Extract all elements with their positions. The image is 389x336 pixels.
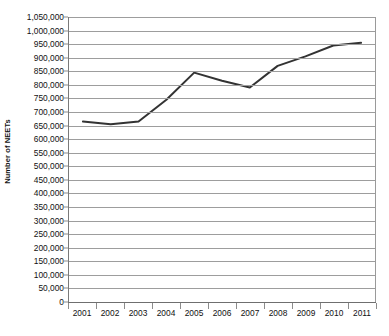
x-tick-separator: [152, 303, 153, 309]
plot-area: [68, 17, 376, 302]
y-tick-label: 150,000: [34, 257, 64, 265]
x-tick-separator: [236, 303, 237, 309]
x-tick-separator: [376, 303, 377, 309]
x-axis-tick-labels: 2001200220032004200520062007200820092010…: [68, 302, 376, 336]
x-tick-label: 2004: [157, 309, 176, 317]
gridline: [69, 193, 375, 194]
x-tick-label: 2010: [325, 309, 344, 317]
y-axis-tick-labels: 1,050,0001,000,000950,000900,000850,0008…: [14, 0, 68, 336]
y-tick-label: 550,000: [34, 149, 64, 157]
x-tick-separator: [348, 303, 349, 309]
y-axis-title-text: Number of NEETs: [3, 119, 12, 184]
x-tick-label: 2009: [297, 309, 316, 317]
x-tick-label: 2002: [101, 309, 120, 317]
gridline: [69, 31, 375, 32]
y-tick-label: 750,000: [34, 94, 64, 102]
y-tick-label: 250,000: [34, 230, 64, 238]
y-tick-label: 800,000: [34, 81, 64, 89]
y-tick-label: 500,000: [34, 162, 64, 170]
y-tick-label: 450,000: [34, 176, 64, 184]
y-tick-label: 100,000: [34, 271, 64, 279]
gridline: [69, 261, 375, 262]
gridline: [69, 180, 375, 181]
x-tick-label: 2011: [353, 309, 371, 317]
gridline: [69, 139, 375, 140]
gridline: [69, 98, 375, 99]
gridline: [69, 58, 375, 59]
gridline: [69, 126, 375, 127]
x-tick-separator: [68, 303, 69, 309]
y-tick-label: 200,000: [34, 244, 64, 252]
x-tick-separator: [208, 303, 209, 309]
y-axis-title: Number of NEETs: [0, 0, 14, 302]
x-tick-label: 2005: [185, 309, 204, 317]
y-tick-label: 950,000: [34, 40, 64, 48]
x-tick-separator: [264, 303, 265, 309]
gridline: [69, 17, 375, 18]
x-tick-label: 2007: [241, 309, 260, 317]
y-tick-label: 350,000: [34, 203, 64, 211]
gridline: [69, 207, 375, 208]
gridline: [69, 44, 375, 45]
y-tick-label: 650,000: [34, 121, 64, 129]
neets-line-chart: Number of NEETs 1,050,0001,000,000950,00…: [0, 0, 389, 336]
x-tick-separator: [292, 303, 293, 309]
y-tick-label: 700,000: [34, 108, 64, 116]
x-tick-separator: [180, 303, 181, 309]
gridline: [69, 153, 375, 154]
gridline: [69, 85, 375, 86]
series-line-number-of-neets: [69, 17, 375, 302]
gridline: [69, 112, 375, 113]
y-tick-label: 1,050,000: [27, 13, 64, 21]
gridline: [69, 166, 375, 167]
gridline: [69, 234, 375, 235]
gridline: [69, 275, 375, 276]
gridline: [69, 221, 375, 222]
y-tick-label: 600,000: [34, 135, 64, 143]
gridline: [69, 71, 375, 72]
gridline: [69, 248, 375, 249]
y-tick-label: 300,000: [34, 216, 64, 224]
x-tick-separator: [124, 303, 125, 309]
x-tick-label: 2006: [213, 309, 232, 317]
x-tick-separator: [320, 303, 321, 309]
y-tick-label: 400,000: [34, 189, 64, 197]
y-tick-label: 900,000: [34, 54, 64, 62]
x-tick-label: 2001: [73, 309, 92, 317]
x-tick-separator: [96, 303, 97, 309]
y-tick-label: 50,000: [38, 284, 64, 292]
x-tick-label: 2003: [129, 309, 148, 317]
x-tick-label: 2008: [269, 309, 288, 317]
gridline: [69, 288, 375, 289]
y-tick-label: 1,000,000: [27, 26, 64, 34]
y-tick-label: 850,000: [34, 67, 64, 75]
